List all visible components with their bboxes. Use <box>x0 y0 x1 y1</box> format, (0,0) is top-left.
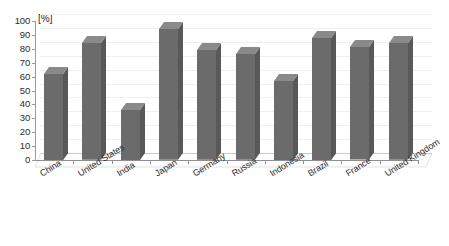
y-tick-label: 0 <box>4 155 30 165</box>
bar[interactable] <box>274 74 298 160</box>
y-tick-label: 40 <box>4 99 30 109</box>
y-tick-label: 80 <box>4 44 30 54</box>
bar[interactable] <box>350 40 374 160</box>
bar[interactable] <box>236 47 260 160</box>
y-tick-label: 100 <box>4 16 30 26</box>
y-tick-label: 30 <box>4 113 30 123</box>
bar-side-face <box>44 67 68 160</box>
gridline <box>40 14 432 15</box>
x-tick-mark <box>227 160 228 164</box>
bar-side-face <box>389 36 413 160</box>
bar-side-face <box>82 36 106 160</box>
x-tick-mark <box>303 160 304 164</box>
bar[interactable] <box>389 36 413 160</box>
bar-side-face <box>274 74 298 160</box>
y-tick-label: 60 <box>4 72 30 82</box>
plot-area <box>35 21 432 160</box>
category-label: Brazil <box>306 158 330 178</box>
bar[interactable] <box>159 22 183 160</box>
y-axis-tick-labels: 0102030405060708090100 <box>0 0 30 180</box>
bar[interactable] <box>197 43 221 160</box>
y-tick-label: 70 <box>4 58 30 68</box>
bar-side-face <box>197 43 221 160</box>
bar-side-face <box>312 31 336 160</box>
category-label: India <box>115 160 136 179</box>
x-tick-mark <box>380 160 381 164</box>
x-tick-mark <box>418 160 419 164</box>
x-tick-mark <box>188 160 189 164</box>
y-tick-label: 20 <box>4 127 30 137</box>
bar-side-face <box>236 47 260 160</box>
bar[interactable] <box>312 31 336 160</box>
y-tick-label: 90 <box>4 30 30 40</box>
bar[interactable] <box>82 36 106 160</box>
x-tick-mark <box>150 160 151 164</box>
x-tick-mark <box>112 160 113 164</box>
y-tick-label: 10 <box>4 141 30 151</box>
x-tick-mark <box>73 160 74 164</box>
y-tick-label: 50 <box>4 86 30 96</box>
bar-side-face <box>350 40 374 160</box>
x-tick-mark <box>341 160 342 164</box>
bar-side-face <box>159 22 183 160</box>
bar-chart: [%] 0102030405060708090100 ChinaUnited S… <box>0 0 449 246</box>
bar[interactable] <box>44 67 68 160</box>
x-tick-mark <box>265 160 266 164</box>
